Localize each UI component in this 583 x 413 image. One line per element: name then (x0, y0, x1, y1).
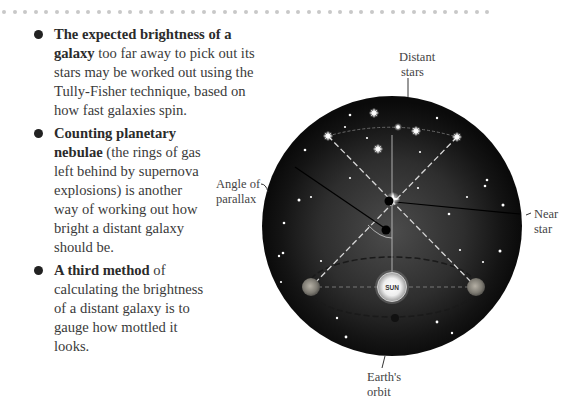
label-line: orbit (367, 385, 401, 400)
sun-label: SUN (385, 284, 399, 291)
distant-stars-label: Distant stars (399, 50, 435, 80)
near-star-label: Near star (534, 207, 558, 237)
label-line: Distant (399, 50, 435, 65)
label-line: parallax (216, 192, 260, 207)
earth-right (467, 278, 485, 296)
label-line: Near (534, 207, 558, 222)
angle-of-parallax-label: Angle of parallax (216, 177, 260, 207)
label-line: stars (399, 65, 435, 80)
label-line: Earth's (367, 370, 401, 385)
parallax-diagram: SUN (0, 0, 583, 413)
label-line: Angle of (216, 177, 260, 192)
earth-left (302, 278, 320, 296)
earths-orbit-label: Earth's orbit (367, 370, 401, 400)
label-line: star (534, 222, 558, 237)
